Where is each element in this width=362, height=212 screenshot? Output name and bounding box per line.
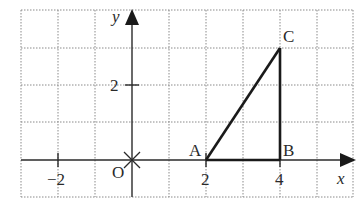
- point-label-c: C: [283, 27, 294, 46]
- tick-label-x-4: 4: [275, 170, 284, 189]
- tick-label-x-neg2: −2: [47, 170, 65, 189]
- x-axis-arrow-icon: [340, 153, 356, 167]
- origin-label: O: [112, 163, 124, 182]
- tick-label-x-2: 2: [201, 170, 210, 189]
- coordinate-diagram: y x O −2 2 4 2 A B C: [0, 0, 362, 212]
- tick-label-y-2: 2: [110, 76, 119, 95]
- x-axis-label: x: [336, 169, 345, 188]
- grid: [21, 10, 353, 197]
- y-axis-label: y: [110, 7, 120, 26]
- point-label-a: A: [189, 141, 202, 160]
- y-axis-arrow-icon: [125, 9, 139, 25]
- point-label-b: B: [283, 141, 294, 160]
